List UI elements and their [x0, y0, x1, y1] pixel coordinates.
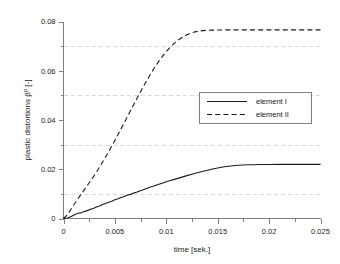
x-axis-title-text: time [sek.]: [174, 245, 210, 254]
x-tick-label: 0.025: [311, 227, 330, 236]
x-axis-tick-labels: 00.0050.010.0150.020.025: [61, 227, 329, 236]
x-axis-title: time [sek.]: [174, 245, 210, 254]
series-path-2: [64, 30, 321, 219]
legend[interactable]: element I element II: [200, 93, 312, 124]
y-axis-title-text: plastic distortions βp [-]: [22, 80, 32, 161]
y-tick-label: 0.02: [41, 165, 56, 174]
y-tick-label: 0.08: [41, 17, 56, 26]
y-tick-label: 0.06: [41, 67, 56, 76]
x-axis-ticks: [65, 219, 322, 224]
chart-figure: 00.020.040.060.08 00.0050.010.0150.020.0…: [0, 0, 340, 264]
plot-canvas: 00.020.040.060.08 00.0050.010.0150.020.0…: [0, 0, 340, 264]
legend-label-element-ii: element II: [256, 110, 289, 119]
x-tick-label: 0.005: [106, 227, 125, 236]
x-tick-label: 0.01: [159, 227, 174, 236]
x-tick-label: 0.015: [208, 227, 227, 236]
y-axis-tick-labels: 00.020.040.060.08: [41, 17, 56, 223]
y-tick-label: 0: [51, 214, 55, 223]
legend-label-element-i: element I: [256, 97, 287, 106]
x-tick-label: 0.02: [262, 227, 277, 236]
y-axis-title: plastic distortions βp [-]: [22, 80, 32, 161]
series-path-1: [64, 164, 321, 218]
y-tick-label: 0.04: [41, 116, 56, 125]
data-series: [64, 30, 321, 219]
y-axis-ticks: [59, 23, 64, 220]
x-tick-label: 0: [61, 227, 65, 236]
